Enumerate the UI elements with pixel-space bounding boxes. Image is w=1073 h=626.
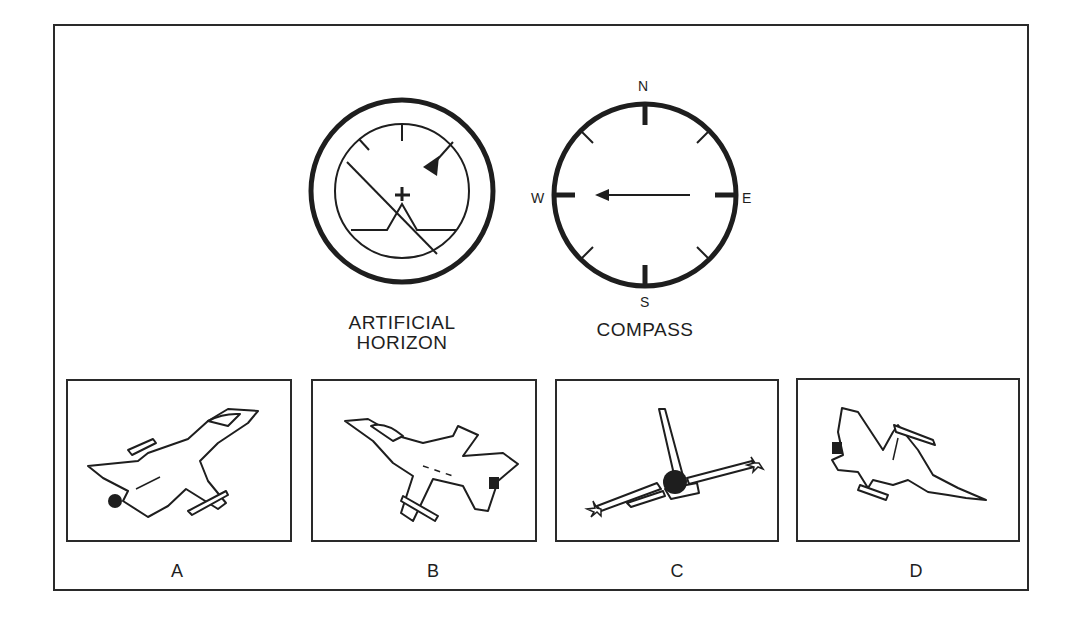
compass-icon <box>545 95 745 295</box>
compass-e-label: E <box>742 191 751 205</box>
option-b-panel[interactable] <box>311 379 537 542</box>
option-a-label: A <box>157 561 197 582</box>
compass-n-label: N <box>638 79 648 93</box>
compass-label: COMPASS <box>570 320 720 340</box>
artificial-horizon-label: ARTIFICIAL HORIZON <box>322 313 482 353</box>
compass-s-label: S <box>640 295 649 309</box>
option-d-label: D <box>896 561 936 582</box>
option-a-panel[interactable] <box>66 379 292 542</box>
artificial-horizon-icon <box>307 96 497 286</box>
jet-diving-left-bank-icon <box>798 380 1018 540</box>
option-d-panel[interactable] <box>796 378 1020 542</box>
compass-w-label: W <box>531 191 544 205</box>
option-b-label: B <box>413 561 453 582</box>
option-c-label: C <box>657 561 697 582</box>
option-c-panel[interactable] <box>555 379 779 542</box>
jet-climbing-left-bank-icon <box>68 381 290 540</box>
jet-diving-right-icon <box>313 381 535 540</box>
jet-rear-view-banked-icon <box>557 381 777 540</box>
